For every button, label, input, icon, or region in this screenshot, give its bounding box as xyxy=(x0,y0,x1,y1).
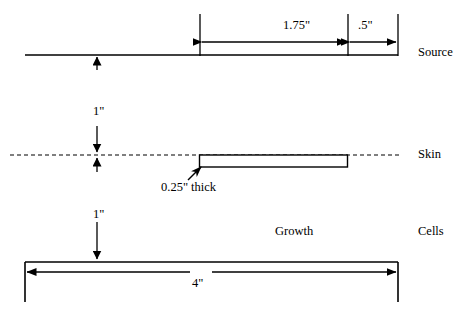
diagram-vector-layer xyxy=(0,0,475,312)
dimension-label-cells-width: 4" xyxy=(192,277,203,290)
dimension-label-0-5: .5" xyxy=(358,19,372,32)
growth-slab-rect xyxy=(200,155,348,167)
dimension-label-1-75: 1.75" xyxy=(283,19,310,32)
growth-thickness-label: 0.25" thick xyxy=(161,181,216,194)
cells-box-group xyxy=(25,262,398,302)
dimension-label-skin-to-cells: 1" xyxy=(93,208,104,221)
growth-slab-outline xyxy=(200,155,348,167)
dimension-label-source-to-skin: 1" xyxy=(93,105,104,118)
growth-thickness-leader xyxy=(188,167,201,180)
side-label-cells: Cells xyxy=(418,225,444,238)
growth-region-label: Growth xyxy=(275,225,313,238)
side-label-source: Source xyxy=(418,46,453,59)
diagram-canvas: 1.75" .5" Source 1" Skin 0.25" thick 1" … xyxy=(0,0,475,312)
side-label-skin: Skin xyxy=(418,148,441,161)
growth-thickness-leader-line xyxy=(188,167,201,180)
